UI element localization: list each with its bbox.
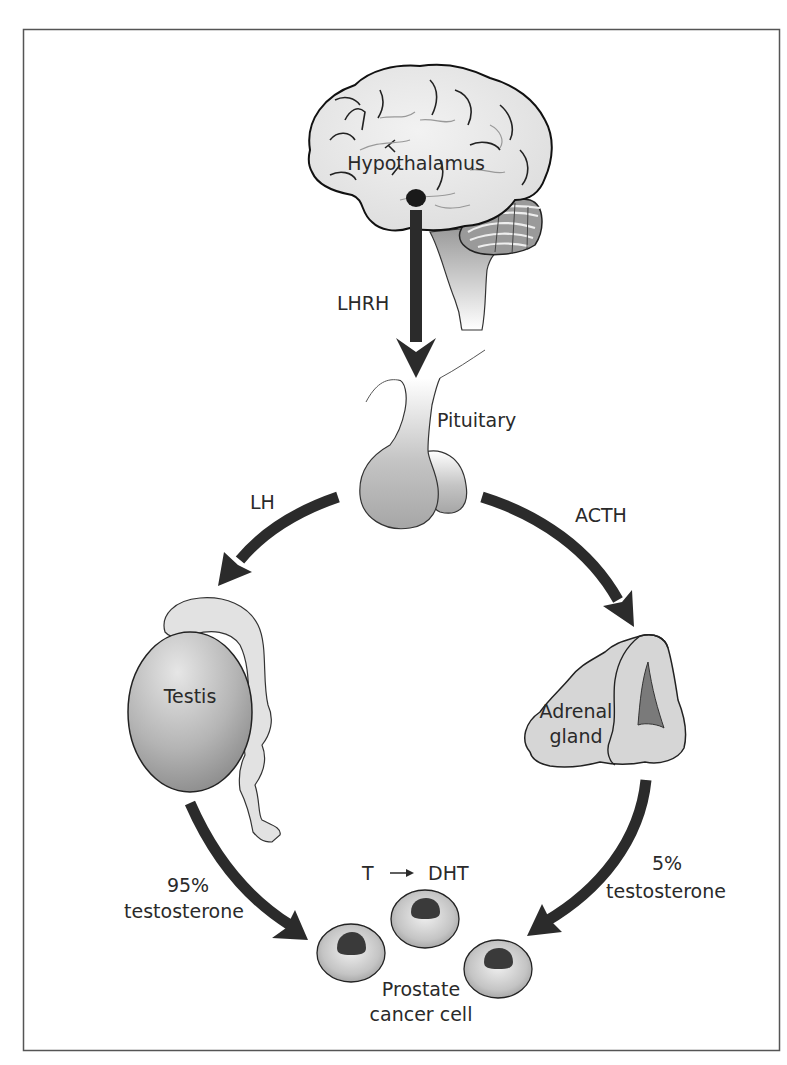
conversion-arrow-icon [390,869,414,877]
prostate-label-line1: Prostate [382,978,460,1000]
adrenal-gland-icon: Adrenal gland [525,635,686,767]
prostate-cells: Prostate cancer cell [317,890,532,1025]
testosterone-symbol: T [361,862,374,884]
lhrh-label: LHRH [337,292,389,314]
hypothalamus-marker [406,189,426,207]
lhrh-arrowhead [396,338,436,378]
lh-label: LH [250,491,275,513]
testis-output-hormone: testosterone [124,900,244,922]
pituitary-label: Pituitary [437,409,516,431]
adrenal-output-hormone: testosterone [606,880,726,902]
prostate-label-line2: cancer cell [370,1003,473,1025]
brain-icon: Hypothalamus [309,65,552,330]
acth-label: ACTH [575,504,627,526]
t-to-dht-conversion: T DHT [361,862,469,884]
adrenal-to-prostate-arrow [527,780,646,936]
testis-body [128,632,252,792]
testis-output-percent: 95% [167,874,209,896]
cell-icon [317,924,385,982]
lh-arrow [218,497,338,586]
hormone-pathway-diagram: Hypothalamus LHRH Pituitary LH ACTH Test… [0,0,787,1065]
hypothalamus-label: Hypothalamus [347,152,485,174]
adrenal-label-line2: gland [549,725,602,747]
dht-symbol: DHT [428,862,469,884]
adrenal-output-percent: 5% [652,852,682,874]
cell-icon [464,940,532,998]
lhrh-arrow-shaft [410,210,422,342]
lhrh-arrow [396,210,436,378]
pituitary-anterior-lobe [360,378,440,529]
testis-icon: Testis [128,598,280,842]
cell-icon [391,890,459,948]
adrenal-label-line1: Adrenal [540,700,613,722]
testis-label: Testis [163,685,217,707]
